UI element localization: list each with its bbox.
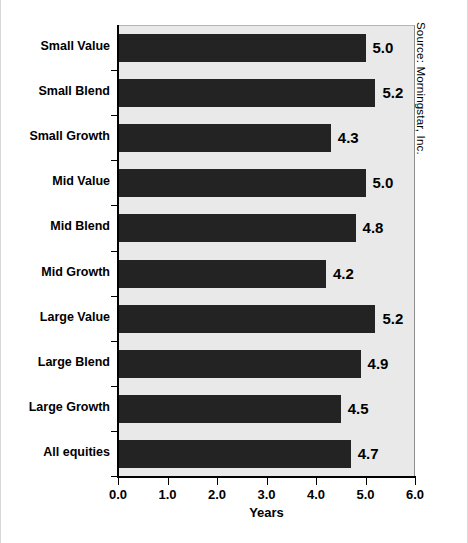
y-axis-tick [111, 386, 118, 387]
bar-value-label: 5.0 [366, 34, 394, 62]
bar [118, 169, 366, 197]
y-axis-tick [111, 296, 118, 297]
bar-value-label: 4.5 [341, 395, 369, 423]
category-label-large-blend: Large Blend [0, 355, 110, 369]
x-axis-tick [217, 478, 218, 485]
category-label-mid-value: Mid Value [0, 174, 110, 188]
plot-area: 5.05.24.35.04.84.25.24.94.54.7 [118, 25, 415, 476]
x-axis-tick [267, 478, 268, 485]
bar-row: 5.0 [118, 26, 414, 71]
bar-row: 4.7 [118, 432, 414, 477]
x-axis-tick-label: 6.0 [385, 487, 445, 502]
bar [118, 395, 341, 423]
bar-row: 5.0 [118, 161, 414, 206]
x-axis-title: Years [118, 505, 415, 520]
category-label-all-equities: All equities [0, 445, 110, 459]
y-axis-tick [111, 431, 118, 432]
y-axis-tick [111, 251, 118, 252]
bar-value-label: 4.3 [331, 124, 359, 152]
category-label-small-value: Small Value [0, 39, 110, 53]
x-axis-tick [415, 478, 416, 485]
bar-row: 4.9 [118, 342, 414, 387]
bar-value-label: 5.2 [375, 305, 403, 333]
category-label-small-growth: Small Growth [0, 129, 110, 143]
bar-value-label: 5.0 [366, 169, 394, 197]
bar-row: 4.3 [118, 116, 414, 161]
category-label-mid-blend: Mid Blend [0, 219, 110, 233]
bar [118, 305, 375, 333]
bar [118, 214, 356, 242]
bar-row: 5.2 [118, 71, 414, 116]
bar [118, 260, 326, 288]
bar-value-label: 4.7 [351, 440, 379, 468]
bar-row: 4.2 [118, 252, 414, 297]
y-axis-tick [111, 205, 118, 206]
bar [118, 34, 366, 62]
y-axis-tick [111, 70, 118, 71]
x-axis-tick [316, 478, 317, 485]
bar-row: 4.8 [118, 206, 414, 251]
x-axis-tick [118, 478, 119, 485]
y-axis-tick [111, 160, 118, 161]
category-label-small-blend: Small Blend [0, 84, 110, 98]
bar-row: 4.5 [118, 387, 414, 432]
x-axis-tick [366, 478, 367, 485]
bar-value-label: 4.9 [361, 350, 389, 378]
source-note: Source: Morningstar, Inc. [415, 22, 427, 155]
category-label-mid-growth: Mid Growth [0, 265, 110, 279]
y-axis-tick [111, 341, 118, 342]
x-axis-tick [168, 478, 169, 485]
y-axis-tick [111, 115, 118, 116]
bar-value-label: 5.2 [375, 79, 403, 107]
bar-value-label: 4.8 [356, 214, 384, 242]
bar-value-label: 4.2 [326, 260, 354, 288]
bar [118, 79, 375, 107]
category-label-large-growth: Large Growth [0, 400, 110, 414]
bar [118, 440, 351, 468]
bar-chart-figure: 5.05.24.35.04.84.25.24.94.54.7 Small Val… [0, 0, 468, 543]
bar [118, 350, 361, 378]
category-label-large-value: Large Value [0, 310, 110, 324]
y-axis-tick [111, 476, 118, 477]
bar [118, 124, 331, 152]
bar-row: 5.2 [118, 297, 414, 342]
